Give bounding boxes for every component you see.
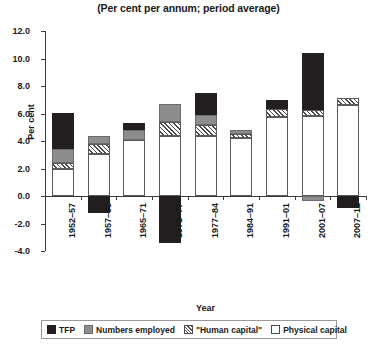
bar-segment-tfp (123, 123, 145, 130)
x-tick (81, 196, 82, 200)
x-category-label: 1984–91 (245, 203, 255, 238)
x-tick (45, 196, 46, 200)
bar-segment-physical-capital (302, 116, 324, 196)
bar-segment-physical-capital (230, 138, 252, 196)
chart-title: (Per cent per annum; period average) (0, 2, 377, 14)
y-tick (41, 251, 45, 252)
bar-segment-human-capital (266, 109, 288, 117)
bar-segment-human-capital (159, 122, 181, 136)
x-tick (259, 196, 260, 200)
bar-segment-numbers-employed (195, 115, 217, 125)
y-tick (41, 224, 45, 225)
bar-segment-physical-capital (337, 105, 359, 196)
bar-segment-human-capital (88, 144, 110, 154)
legend-item-label: TFP (59, 325, 75, 335)
bar-segment-physical-capital (266, 117, 288, 196)
x-tick (366, 196, 367, 200)
legend-item[interactable]: "Human capital" (184, 325, 262, 335)
x-tick (223, 196, 224, 200)
y-tick-label: 12.0 (0, 26, 30, 36)
y-tick (41, 141, 45, 142)
legend-item-label: Physical capital (283, 325, 347, 335)
bar-segment-numbers-employed (52, 149, 74, 163)
y-axis-line (45, 31, 46, 251)
x-category-label: 1971–77 (174, 203, 184, 238)
bar-segment-numbers-employed (88, 136, 110, 144)
y-tick-label: 0.0 (0, 191, 30, 201)
bar-segment-physical-capital (123, 140, 145, 196)
bar-segment-physical-capital (88, 154, 110, 196)
x-category-label: 2001–07 (317, 203, 327, 238)
x-category-label: 2007–12 (352, 203, 362, 238)
y-tick-label: -2.0 (0, 219, 30, 229)
x-tick (188, 196, 189, 200)
chart-legend: TFPNumbers employed"Human capital"Physic… (41, 320, 337, 339)
plot-area: 12.010.08.06.04.02.00.0-2.0-4.0 1952–571… (45, 31, 366, 251)
x-category-label: 1991–01 (281, 203, 291, 238)
bar-segment-numbers-employed (302, 196, 324, 201)
legend-item[interactable]: Numbers employed (84, 325, 175, 335)
y-tick (41, 86, 45, 87)
bar-segment-tfp (266, 100, 288, 108)
legend-swatch-physical-capital (271, 325, 280, 334)
legend-item[interactable]: TFP (47, 325, 75, 335)
y-axis-label: Per cent (26, 104, 36, 140)
legend-item-label: "Human capital" (196, 325, 262, 335)
x-category-label: 1965–71 (138, 203, 148, 238)
x-tick (152, 196, 153, 200)
x-tick (295, 196, 296, 200)
bar-segment-tfp (302, 53, 324, 110)
bar-segment-physical-capital (159, 136, 181, 196)
chart-container: (Per cent per annum; period average) 12.… (0, 0, 377, 345)
y-tick-label: -4.0 (0, 246, 30, 256)
y-tick (41, 31, 45, 32)
y-tick-label: 2.0 (0, 164, 30, 174)
bar-segment-physical-capital (195, 136, 217, 196)
x-tick (116, 196, 117, 200)
bar-segment-numbers-employed (230, 130, 252, 134)
bar-segment-human-capital (230, 134, 252, 138)
y-tick-label: 8.0 (0, 81, 30, 91)
legend-item[interactable]: Physical capital (271, 325, 347, 335)
y-tick (41, 114, 45, 115)
bar-segment-human-capital (52, 163, 74, 169)
y-tick-label: 10.0 (0, 54, 30, 64)
bar-segment-numbers-employed (123, 130, 145, 140)
legend-item-label: Numbers employed (96, 325, 175, 335)
bar-segment-tfp (195, 93, 217, 115)
bar-segment-human-capital (337, 98, 359, 105)
legend-swatch-tfp (47, 325, 56, 334)
legend-swatch-numbers-employed (84, 325, 93, 334)
bar-segment-numbers-employed (159, 104, 181, 122)
bar-segment-tfp (52, 113, 74, 149)
x-category-label: 1977–84 (210, 203, 220, 238)
y-tick (41, 169, 45, 170)
legend-swatch-human-capital (184, 325, 193, 334)
x-category-label: 1952–57 (67, 203, 77, 238)
x-axis-label: Year (45, 303, 366, 313)
x-tick (330, 196, 331, 200)
y-tick (41, 59, 45, 60)
x-category-label: 1957–65 (103, 203, 113, 238)
bar-segment-physical-capital (52, 169, 74, 197)
bar-segment-human-capital (195, 125, 217, 137)
bar-segment-human-capital (302, 110, 324, 116)
